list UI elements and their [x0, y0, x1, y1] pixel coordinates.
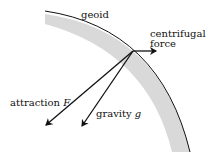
- attraction-symbol: F: [63, 97, 70, 108]
- centrifugal-label-line2: force: [150, 39, 176, 49]
- gravity-label: gravity g: [96, 109, 141, 119]
- attraction-label: attraction F: [10, 98, 70, 108]
- gravity-symbol: g: [135, 108, 141, 119]
- geoid-force-diagram: geoid centrifugal force attraction F gra…: [0, 0, 208, 161]
- geoid-label: geoid: [81, 10, 109, 20]
- diagram-canvas: [0, 0, 208, 161]
- attraction-text: attraction: [10, 97, 60, 108]
- gravity-text: gravity: [96, 108, 132, 119]
